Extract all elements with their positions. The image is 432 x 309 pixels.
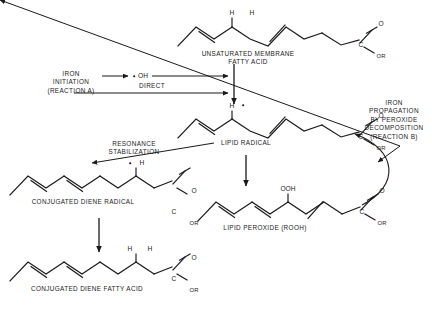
ester-or-group: OR xyxy=(377,53,386,60)
hydrogen-atom: H xyxy=(230,9,235,16)
oxygen-atom: O xyxy=(379,187,384,194)
oxygen-atom: O xyxy=(191,187,196,194)
hydrogen-atom: H xyxy=(250,9,255,16)
label-resonance-stabilization: RESONANCE STABILIZATION xyxy=(109,140,160,157)
ester-or-group: OR xyxy=(378,220,387,227)
label-iron-propagation: IRON PROPAGATION BY PEROXIDE DECOMPOSITI… xyxy=(365,99,424,141)
label-conjugated-diene-radical: CONJUGATED DIENE RADICAL xyxy=(32,198,135,206)
hydrogen-atom: H xyxy=(128,245,133,252)
molecule-lipid-radical xyxy=(178,111,377,145)
hydrogen-atom: H xyxy=(140,159,145,166)
label-lipid-radical: LIPID RADICAL xyxy=(221,139,271,147)
label-lipid-peroxide: LIPID PEROXIDE (ROOH) xyxy=(223,224,306,232)
hydrogen-atom: H xyxy=(230,102,235,109)
oxygen-atom: O xyxy=(378,20,383,27)
ester-or-group: OR xyxy=(190,220,199,227)
carbon-atom: C xyxy=(360,208,365,215)
label-conjugated-diene-fatty-acid: CONJUGATED DIENE FATTY ACID xyxy=(31,285,143,293)
ester-or-group: OR xyxy=(190,287,199,294)
hydrogen-atom: H xyxy=(148,245,153,252)
molecule-conjugated-diene-fatty-acid xyxy=(10,254,190,281)
radical-dot-icon xyxy=(242,104,244,106)
lipid-peroxidation-diagram: H H O C OR UNSATURATED MEMBRANE FATTY AC… xyxy=(0,0,432,309)
carbon-atom: C xyxy=(172,275,177,282)
molecule-conjugated-diene-radical xyxy=(10,168,190,195)
molecule-lipid-peroxide xyxy=(198,194,378,221)
radical-dot-icon xyxy=(129,162,131,164)
molecule-unsaturated-fatty-acid xyxy=(178,18,377,53)
label-unsaturated-membrane-fatty-acid: UNSATURATED MEMBRANE FATTY ACID xyxy=(202,50,295,67)
diagram-vector-layer xyxy=(0,0,432,309)
hydroperoxide-group: OOH xyxy=(280,185,295,192)
hydroxyl-radical-label: OH xyxy=(138,72,148,79)
radical-dot-icon xyxy=(133,75,135,77)
oxygen-atom: O xyxy=(191,254,196,261)
ester-or-group: OR xyxy=(377,145,386,152)
carbon-atom: C xyxy=(359,41,364,48)
carbon-atom: C xyxy=(172,208,177,215)
label-direct: DIRECT xyxy=(139,82,165,90)
label-iron-initiation: IRON INITIATION (REACTION A) xyxy=(47,70,94,95)
carbon-atom: C xyxy=(359,133,364,140)
